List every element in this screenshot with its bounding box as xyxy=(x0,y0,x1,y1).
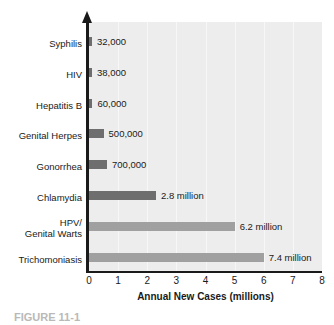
value-label: 2.8 million xyxy=(161,191,204,200)
bar xyxy=(89,99,92,108)
bar xyxy=(89,37,92,46)
category-label: Chlamydia xyxy=(0,192,82,203)
bar xyxy=(89,160,107,169)
value-label: 38,000 xyxy=(97,68,126,77)
bar-row: HIV38,000 xyxy=(0,59,334,89)
x-tick-label: 4 xyxy=(196,275,216,286)
category-label: Gonorrhea xyxy=(0,161,82,172)
category-label: Hepatitis B xyxy=(0,100,82,111)
x-tick-label: 7 xyxy=(283,275,303,286)
figure-caption: FIGURE 11-1 xyxy=(14,311,80,323)
x-tick-label: 6 xyxy=(254,275,274,286)
bar-row: Hepatitis B60,000 xyxy=(0,90,334,120)
bar-row: Genital Herpes500,000 xyxy=(0,120,334,150)
value-label: 7.4 million xyxy=(269,253,312,262)
category-label: Trichomoniasis xyxy=(0,254,82,265)
y-axis-arrow-icon xyxy=(82,11,92,23)
bar-row: Trichomoniasis7.4 million xyxy=(0,244,334,274)
x-tick-label: 3 xyxy=(166,275,186,286)
category-label: HPV/ Genital Warts xyxy=(0,217,82,239)
x-tick-label: 0 xyxy=(79,275,99,286)
bar-row: Syphilis32,000 xyxy=(0,28,334,58)
category-label: Genital Herpes xyxy=(0,130,82,141)
value-label: 60,000 xyxy=(97,99,126,108)
bar xyxy=(89,191,156,200)
bar xyxy=(89,129,104,138)
figure-container: Syphilis32,000HIV38,000Hepatitis B60,000… xyxy=(0,0,334,325)
x-tick-label: 1 xyxy=(108,275,128,286)
bar xyxy=(89,222,235,231)
x-tick-label: 2 xyxy=(137,275,157,286)
bar-row: Chlamydia2.8 million xyxy=(0,182,334,212)
x-tick-label: 5 xyxy=(225,275,245,286)
bar-row: HPV/ Genital Warts6.2 million xyxy=(0,213,334,243)
category-label: Syphilis xyxy=(0,38,82,49)
value-label: 32,000 xyxy=(97,37,126,46)
bar xyxy=(89,253,264,262)
value-label: 6.2 million xyxy=(240,222,283,231)
value-label: 700,000 xyxy=(112,160,146,169)
x-axis-title: Annual New Cases (millions) xyxy=(89,291,322,302)
category-label: HIV xyxy=(0,69,82,80)
value-label: 500,000 xyxy=(109,129,143,138)
x-tick-label: 8 xyxy=(312,275,332,286)
bar-row: Gonorrhea700,000 xyxy=(0,151,334,181)
bar xyxy=(89,68,92,77)
